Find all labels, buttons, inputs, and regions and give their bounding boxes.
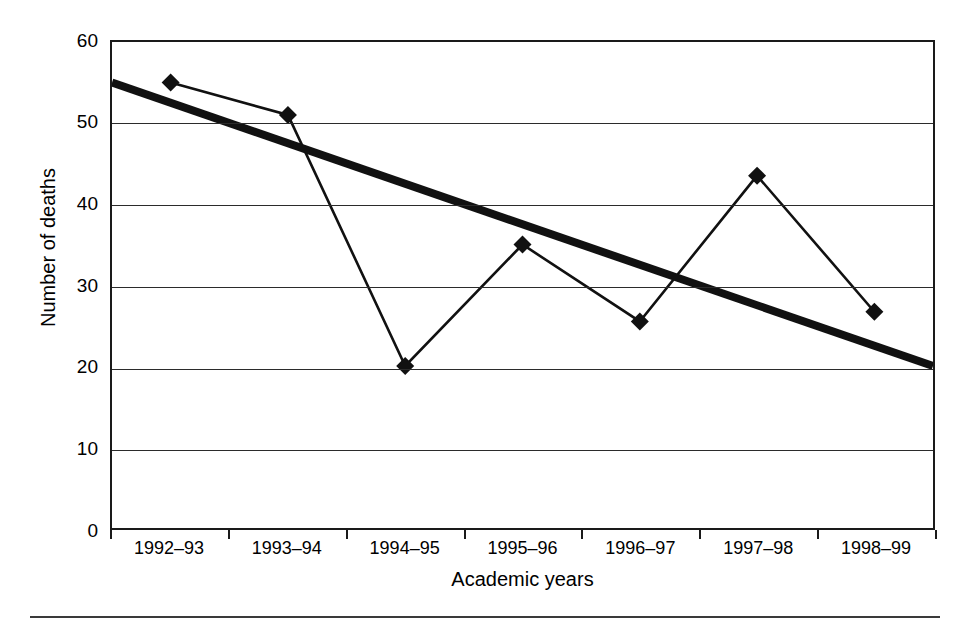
y-tick-label: 20 [28,357,98,376]
x-tick-mark [935,530,937,539]
gridline-10 [112,450,933,451]
y-tick-label: 10 [28,439,98,458]
gridline-30 [112,287,933,288]
y-tick-label: 0 [28,521,98,540]
y-axis-tick-labels: 60 50 40 30 20 10 0 [0,40,98,530]
x-tick-label: 1998–99 [817,538,935,558]
x-axis-title: Academic years [110,568,935,591]
x-tick-label: 1993–94 [228,538,346,558]
x-tick-label: 1994–95 [346,538,464,558]
plot-area [110,40,935,530]
y-tick-label: 60 [28,31,98,50]
bottom-divider-rule [30,616,940,618]
x-tick-label: 1992–93 [110,538,228,558]
x-tick-label: 1996–97 [581,538,699,558]
y-tick-label: 40 [28,194,98,213]
data-point-marker [162,74,180,92]
x-axis-tick-labels: 1992–931993–941994–951995–961996–971997–… [110,538,935,562]
trend-line [112,83,933,367]
y-tick-label: 30 [28,276,98,295]
x-tick-label: 1995–96 [464,538,582,558]
x-tick-label: 1997–98 [699,538,817,558]
gridline-40 [112,205,933,206]
chart-figure: Number of deaths 60 50 40 30 20 10 0 199… [0,0,969,634]
gridline-50 [112,123,933,124]
data-point-marker [279,106,297,124]
gridline-20 [112,369,933,370]
chart-plot-svg [112,42,933,528]
y-tick-label: 50 [28,112,98,131]
